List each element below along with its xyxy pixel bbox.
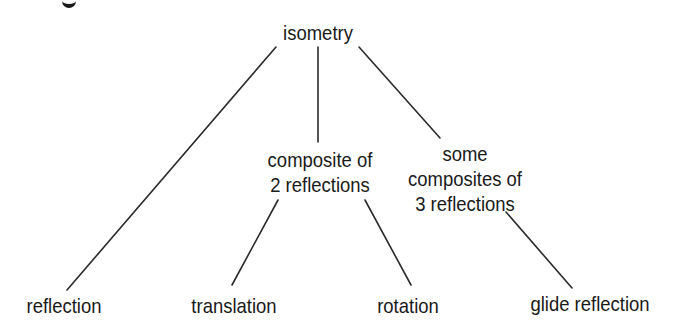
node-composite3-line1: some <box>408 141 522 166</box>
node-reflection: reflection <box>27 293 102 318</box>
node-some-composites-of-3-reflections: some composites of 3 reflections <box>408 141 522 216</box>
edge-composite3-to-glide <box>506 212 572 288</box>
edge-composite2-to-translation <box>232 200 278 285</box>
node-composite2-line1: composite of <box>268 147 373 172</box>
node-translation: translation <box>191 293 276 318</box>
node-composite2-line2: 2 reflections <box>268 172 373 197</box>
node-glide-reflection: glide reflection <box>530 291 649 316</box>
node-composite3-line2: composites of <box>408 166 522 191</box>
node-composite3-line3: 3 reflections <box>408 191 522 216</box>
edge-isometry-to-reflection <box>67 47 276 290</box>
node-composite-of-2-reflections: composite of 2 reflections <box>268 147 373 197</box>
node-rotation: rotation <box>377 293 439 318</box>
edge-isometry-to-composite3 <box>359 47 440 138</box>
edge-composite2-to-rotation <box>365 200 411 285</box>
node-isometry: isometry <box>283 20 353 45</box>
